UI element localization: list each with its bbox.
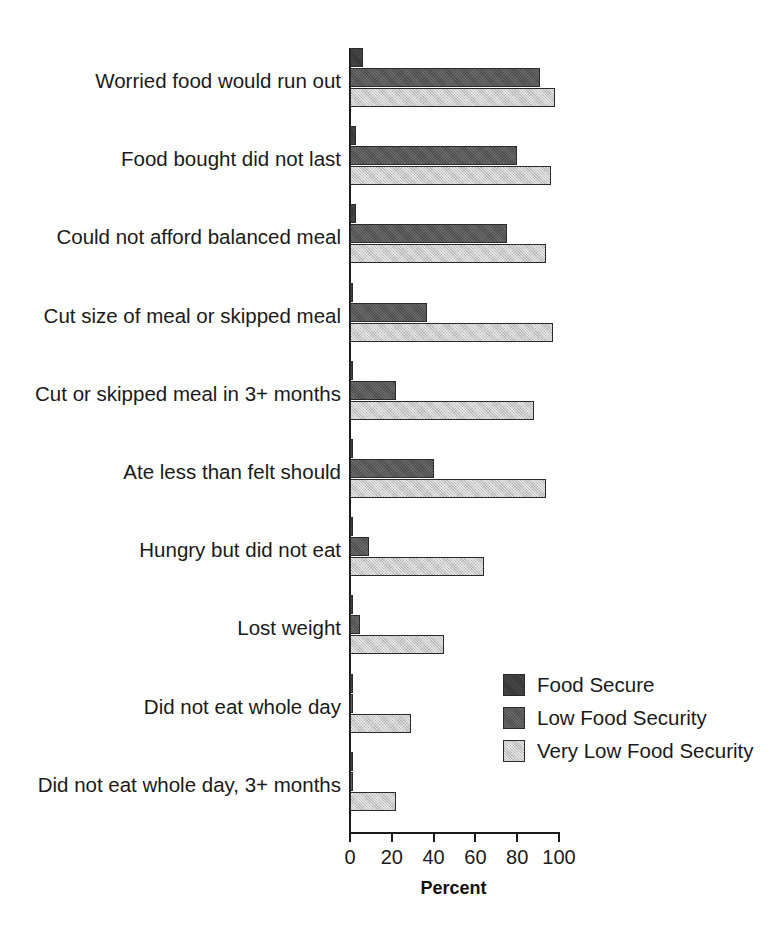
x-axis-tick-label: 40 <box>422 845 444 869</box>
bar <box>350 381 396 400</box>
bar <box>350 772 353 791</box>
bar <box>350 166 551 185</box>
food-security-bar-chart: Worried food would run outFood bought di… <box>0 0 772 943</box>
category-label: Could not afford balanced meal <box>0 225 341 249</box>
legend-swatch-icon <box>503 740 525 762</box>
bar-group: Food bought did not last <box>349 126 558 204</box>
x-axis-tick <box>474 832 476 842</box>
legend-swatch-icon <box>503 707 525 729</box>
bar <box>350 517 353 536</box>
category-label: Did not eat whole day <box>0 695 341 719</box>
bar <box>350 615 360 634</box>
x-axis-tick <box>349 832 351 842</box>
bar-group: Lost weight <box>349 595 558 673</box>
bar <box>350 439 353 458</box>
category-label: Did not eat whole day, 3+ months <box>0 773 341 797</box>
x-axis-tick-label: 20 <box>381 845 403 869</box>
x-axis-tick <box>516 832 518 842</box>
bar <box>350 88 555 107</box>
bar-group: Worried food would run out <box>349 48 558 126</box>
bar <box>350 479 546 498</box>
bar <box>350 401 534 420</box>
bar <box>350 68 540 87</box>
category-label: Hungry but did not eat <box>0 538 341 562</box>
bar-group: Could not afford balanced meal <box>349 204 558 282</box>
legend-item: Very Low Food Security <box>503 734 754 767</box>
bar-group: Cut size of meal or skipped meal <box>349 283 558 361</box>
legend-label: Low Food Security <box>537 706 707 730</box>
legend-label: Very Low Food Security <box>537 739 754 763</box>
bar <box>350 674 353 693</box>
category-label: Lost weight <box>0 616 341 640</box>
category-label: Ate less than felt should <box>0 460 341 484</box>
bar <box>350 537 369 556</box>
x-axis-tick <box>558 832 560 842</box>
bar <box>350 635 444 654</box>
bar <box>350 792 396 811</box>
bar <box>350 126 356 145</box>
category-label: Cut size of meal or skipped meal <box>0 304 341 328</box>
x-axis-title: Percent <box>349 878 558 899</box>
bar <box>350 224 507 243</box>
x-axis-tick-label: 0 <box>344 845 355 869</box>
category-label: Worried food would run out <box>0 69 341 93</box>
bar-group: Ate less than felt should <box>349 439 558 517</box>
category-label: Cut or skipped meal in 3+ months <box>0 382 341 406</box>
bar <box>350 361 353 380</box>
x-axis-tick-label: 100 <box>542 845 575 869</box>
bar <box>350 283 353 302</box>
bar <box>350 595 353 614</box>
legend-label: Food Secure <box>537 673 654 697</box>
bar <box>350 459 434 478</box>
bar <box>350 244 546 263</box>
bar <box>350 714 411 733</box>
bar-group: Cut or skipped meal in 3+ months <box>349 361 558 439</box>
legend-item: Low Food Security <box>503 701 754 734</box>
bar <box>350 204 356 223</box>
bar <box>350 752 353 771</box>
bar <box>350 323 553 342</box>
bar-group: Hungry but did not eat <box>349 517 558 595</box>
legend-swatch-icon <box>503 674 525 696</box>
bar <box>350 303 427 322</box>
bar <box>350 557 484 576</box>
bar <box>350 48 363 67</box>
bar <box>350 694 353 713</box>
bar <box>350 146 517 165</box>
legend-item: Food Secure <box>503 668 754 701</box>
category-label: Food bought did not last <box>0 147 341 171</box>
x-axis-tick-label: 80 <box>506 845 528 869</box>
x-axis-line <box>349 832 560 834</box>
x-axis-tick <box>391 832 393 842</box>
x-axis-tick-label: 60 <box>464 845 486 869</box>
x-axis-tick <box>433 832 435 842</box>
chart-legend: Food SecureLow Food SecurityVery Low Foo… <box>503 668 754 767</box>
